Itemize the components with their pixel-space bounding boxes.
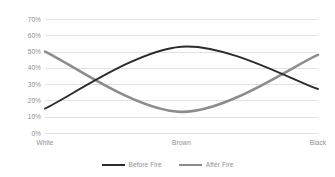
y-tick-label: 0%	[0, 130, 41, 137]
y-tick-label: 10%	[0, 113, 41, 120]
y-tick-label: 70%	[0, 16, 41, 23]
legend-entry-after-fire: After Fire	[179, 161, 234, 169]
y-tick-label: 40%	[0, 64, 41, 71]
y-tick-label: 20%	[0, 97, 41, 104]
legend-label: After Fire	[206, 161, 234, 169]
line-chart: 70% 60% 50% 40% 30% 20% 10% 0% White Bro…	[0, 0, 335, 177]
series-layer	[45, 19, 318, 133]
legend-swatch-icon	[102, 164, 125, 167]
x-axis: White Brown Black	[0, 139, 335, 151]
chart-legend: Before Fire After Fire	[0, 158, 335, 172]
x-tick-label-white: White	[36, 139, 53, 147]
y-tick-label: 30%	[0, 81, 41, 88]
legend-swatch-icon	[179, 164, 202, 166]
y-tick-label: 50%	[0, 48, 41, 55]
x-tick-label-brown: Brown	[172, 139, 191, 147]
legend-label: Before Fire	[129, 161, 162, 169]
plot-area	[45, 19, 318, 133]
series-line-before-fire	[45, 52, 318, 112]
gridline	[45, 133, 318, 134]
y-tick-label: 60%	[0, 32, 41, 39]
legend-entry-before-fire: Before Fire	[102, 161, 162, 169]
x-tick-label-black: Black	[310, 139, 326, 147]
